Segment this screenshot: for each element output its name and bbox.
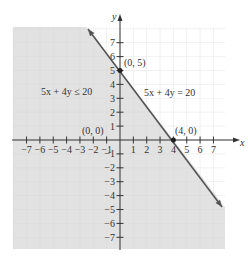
x-tick-label: 7 <box>211 144 216 155</box>
y-axis-arrow-icon <box>118 14 123 21</box>
x-tick-label: 3 <box>158 144 163 155</box>
equation-label: 5x + 4y = 20 <box>144 87 195 98</box>
x-tick-label: 5 <box>184 144 189 155</box>
y-tick-label: 3 <box>110 93 115 104</box>
y-axis-label: y <box>111 11 117 22</box>
y-tick-label: −7 <box>104 232 115 243</box>
x-tick-label: −4 <box>61 144 72 155</box>
x-tick-label: −2 <box>88 144 99 155</box>
y-tick-label: 4 <box>110 79 115 90</box>
point-label-x-intercept: (4, 0) <box>175 125 197 137</box>
y-tick-label: −5 <box>104 204 115 215</box>
inequality-label: 5x + 4y ≤ 20 <box>41 86 92 97</box>
x-tick-label: −7 <box>21 144 32 155</box>
y-tick-label: 1 <box>110 121 115 132</box>
point-label-y-intercept: (0, 5) <box>124 57 146 69</box>
y-tick-label: −3 <box>104 176 115 187</box>
x-axis-arrow-icon <box>233 138 240 143</box>
x-tick-label: 2 <box>144 144 149 155</box>
x-tick-label: −6 <box>35 144 46 155</box>
y-tick-label: −4 <box>104 190 115 201</box>
y-tick-label: 7 <box>110 37 115 48</box>
y-tick-label: −6 <box>104 218 115 229</box>
y-tick-label: −1 <box>104 148 115 159</box>
shaded-region <box>13 27 225 249</box>
point-label-origin: (0, 0) <box>82 125 104 137</box>
x-tick-label: 1 <box>131 144 136 155</box>
shaded-polygon <box>13 27 225 249</box>
x-axis-label: x <box>239 137 245 148</box>
intercept-point <box>118 68 123 73</box>
x-tick-label: −5 <box>48 144 59 155</box>
x-tick-label: 6 <box>198 144 203 155</box>
y-tick-label: 5 <box>110 65 115 76</box>
y-tick-label: −2 <box>104 162 115 173</box>
x-tick-label: −3 <box>75 144 86 155</box>
graph-plot: −7−6−5−4−3−2−11234567−7−6−5−4−3−2−112345… <box>0 0 251 261</box>
y-tick-label: 2 <box>110 107 115 118</box>
intercept-point <box>171 138 176 143</box>
